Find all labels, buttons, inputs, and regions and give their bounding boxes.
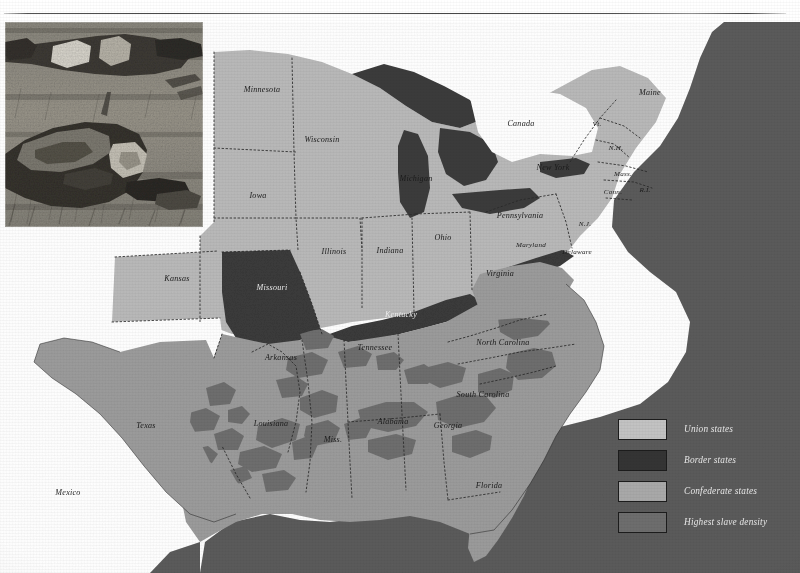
legend-row-confederate: Confederate states	[618, 480, 757, 502]
map-label-new-york: New York	[536, 163, 570, 172]
map-label-maine: Maine	[638, 88, 661, 97]
map-label-north-carolina: North Carolina	[475, 338, 529, 347]
map-label-virginia: Virginia	[486, 269, 514, 278]
page-root: CanadaMexicoMinnesotaWisconsinIowaMichig…	[0, 0, 800, 573]
map-label-new-jersey: N.J.	[578, 220, 591, 228]
battlefield-photo-svg	[5, 22, 203, 227]
map-label-indiana: Indiana	[376, 246, 404, 255]
header-rule	[4, 13, 786, 14]
map-label-alabama: Alabama	[377, 417, 409, 426]
legend-swatch-union	[618, 419, 667, 440]
map-label-kentucky: Kentucky	[384, 310, 417, 319]
map-label-texas: Texas	[136, 421, 155, 430]
map-label-georgia: Georgia	[434, 421, 462, 430]
legend-row-border: Border states	[618, 449, 736, 471]
state-kansas	[112, 251, 220, 322]
map-label-maryland: Maryland	[515, 241, 546, 249]
legend-label-slave-density: Highest slave density	[684, 517, 767, 527]
map-label-missouri: Missouri	[256, 283, 288, 292]
legend-swatch-slave-density	[618, 512, 667, 533]
map-label-new-hampshire: N.H.	[608, 144, 623, 152]
map-legend: Union states Border states Confederate s…	[618, 418, 790, 533]
legend-row-union: Union states	[618, 418, 733, 440]
map-label-delaware: Delaware	[561, 248, 592, 256]
map-label-iowa: Iowa	[248, 191, 266, 200]
map-label-connecticut: Conn.	[604, 188, 622, 196]
map-label-wisconsin: Wisconsin	[304, 135, 339, 144]
legend-label-confederate: Confederate states	[684, 486, 757, 496]
legend-label-border: Border states	[684, 455, 736, 465]
map-label-ohio: Ohio	[434, 233, 451, 242]
legend-row-slave-density: Highest slave density	[618, 511, 767, 533]
legend-label-union: Union states	[684, 424, 733, 434]
map-label-florida: Florida	[475, 481, 502, 490]
map-label-pennsylvania: Pennsylvania	[496, 211, 544, 220]
map-label-mexico: Mexico	[54, 488, 80, 497]
map-label-canada: Canada	[507, 119, 534, 128]
battlefield-photo-inset	[5, 22, 203, 227]
map-label-arkansas: Arkansas	[264, 353, 297, 362]
map-label-south-carolina: South Carolina	[457, 390, 510, 399]
map-label-tennessee: Tennessee	[358, 343, 393, 352]
map-label-minnesota: Minnesota	[243, 85, 280, 94]
map-label-mississippi: Miss.	[323, 435, 343, 444]
map-label-massachusetts: Mass.	[613, 170, 632, 178]
map-label-kansas: Kansas	[163, 274, 189, 283]
map-label-illinois: Illinois	[321, 247, 347, 256]
map-label-vermont: Vt.	[593, 120, 602, 128]
map-label-rhode-island: R.I.	[638, 186, 650, 194]
map-label-louisiana: Louisiana	[253, 419, 289, 428]
map-label-michigan: Michigan	[398, 174, 432, 183]
legend-swatch-border	[618, 450, 667, 471]
legend-swatch-confederate	[618, 481, 667, 502]
